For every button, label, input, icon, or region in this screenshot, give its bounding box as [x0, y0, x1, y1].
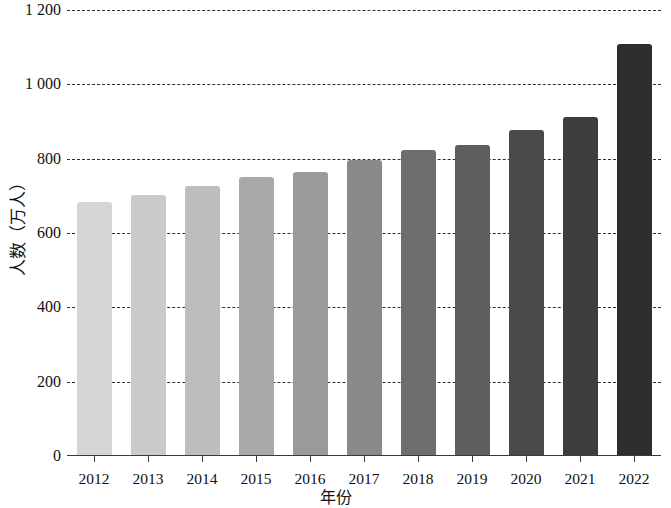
y-axis-tick-label: 600: [37, 225, 61, 241]
x-axis-tick: [472, 456, 473, 462]
bar-chart: 人数（万人） 02004006008001 0001 200 201220132…: [0, 0, 671, 508]
bar[interactable]: [617, 44, 652, 455]
bar[interactable]: [401, 150, 436, 455]
y-axis-tick-label: 800: [37, 151, 61, 167]
x-axis-tick: [148, 456, 149, 462]
bar[interactable]: [185, 186, 220, 455]
y-axis-tick-label: 1 000: [25, 76, 61, 92]
x-axis-tick: [256, 456, 257, 462]
bar[interactable]: [455, 145, 490, 455]
bar[interactable]: [563, 117, 598, 455]
x-axis-tick: [364, 456, 365, 462]
bar[interactable]: [509, 130, 544, 455]
y-axis-tick-label: 0: [53, 448, 61, 464]
bar[interactable]: [347, 160, 382, 455]
bar[interactable]: [131, 195, 166, 455]
bar[interactable]: [293, 172, 328, 455]
gridline: [67, 10, 661, 11]
x-axis-tick: [202, 456, 203, 462]
y-axis-title: 人数（万人）: [4, 135, 29, 315]
x-axis-tick: [580, 456, 581, 462]
y-axis-tick-label: 1 200: [25, 2, 61, 18]
y-axis-tick-label: 400: [37, 299, 61, 315]
bar[interactable]: [239, 177, 274, 455]
x-axis-tick: [526, 456, 527, 462]
bar[interactable]: [77, 202, 112, 455]
plot-area: 02004006008001 0001 200 2012201320142015…: [67, 10, 661, 456]
x-axis-tick: [94, 456, 95, 462]
x-axis-tick: [310, 456, 311, 462]
x-axis-title: 年份: [0, 484, 671, 508]
x-axis-tick: [634, 456, 635, 462]
gridline: [67, 84, 661, 85]
x-axis-tick: [418, 456, 419, 462]
y-axis-tick-label: 200: [37, 374, 61, 390]
